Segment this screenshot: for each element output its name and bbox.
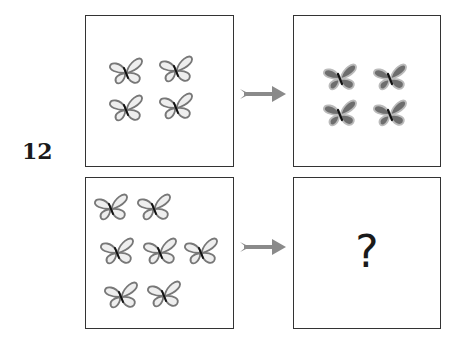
panel-bottom-right-answer[interactable]: ? <box>293 177 441 329</box>
butterfly-filled-icon <box>322 62 358 94</box>
arrow-right-icon <box>238 237 288 257</box>
butterfly-outline-icon <box>103 280 139 312</box>
butterfly-filled-icon <box>372 98 408 130</box>
panel-top-left <box>85 15 234 167</box>
panel-top-right <box>293 15 441 167</box>
question-mark: ? <box>294 226 440 277</box>
butterfly-filled-icon <box>372 62 408 94</box>
butterfly-filled-icon <box>322 98 358 130</box>
butterfly-outline-icon <box>142 236 178 268</box>
butterfly-outline-icon <box>93 192 129 224</box>
butterfly-outline-icon <box>99 236 135 268</box>
butterfly-outline-icon <box>146 279 182 311</box>
butterfly-outline-icon <box>136 192 172 224</box>
panel-bottom-left <box>85 177 234 329</box>
butterfly-outline-icon <box>158 91 194 123</box>
butterfly-outline-icon <box>108 93 144 125</box>
puzzle-number: 12 <box>22 138 53 164</box>
butterfly-outline-icon <box>183 236 219 268</box>
arrow-right-icon <box>238 84 288 104</box>
butterfly-outline-icon <box>108 56 144 88</box>
butterfly-outline-icon <box>158 54 194 86</box>
